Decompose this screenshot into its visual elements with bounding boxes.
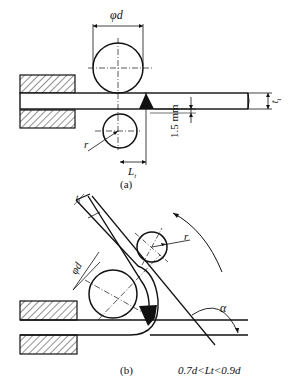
rotation-arrow bbox=[173, 213, 222, 272]
bend-test-diagram bbox=[0, 0, 292, 386]
angle-label: α bbox=[220, 301, 226, 316]
clamp-lower-b bbox=[20, 335, 77, 354]
figure-b bbox=[20, 194, 248, 354]
condition-label: 0.7d<Lt<0.9d bbox=[178, 364, 241, 376]
gap-label: 1.5 mm bbox=[168, 104, 180, 138]
clamp-upper bbox=[20, 75, 75, 93]
bending-roller bbox=[89, 270, 137, 318]
radius-label-b: r bbox=[184, 230, 188, 242]
caption-a: (a) bbox=[120, 178, 132, 190]
clamp-lower bbox=[20, 110, 75, 128]
clamp-upper-b bbox=[20, 301, 77, 320]
caption-b: (b) bbox=[120, 364, 133, 376]
thickness-label-a: tt bbox=[269, 99, 283, 104]
specimen bbox=[20, 93, 248, 109]
thickness-label-b: tt bbox=[76, 192, 80, 204]
diameter-label-a: φd bbox=[110, 8, 123, 23]
radius-label-a: r bbox=[84, 138, 88, 150]
figure-a bbox=[20, 24, 272, 165]
